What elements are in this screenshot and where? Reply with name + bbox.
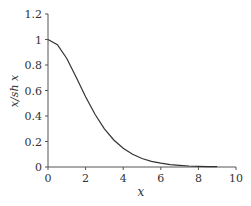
- y-axis-label: x/sh x: [8, 74, 21, 107]
- y-tick-label: 1: [35, 34, 42, 47]
- x-tick-label: 8: [195, 172, 202, 185]
- x-tick-label: 0: [45, 172, 52, 185]
- x-tick-label: 2: [82, 172, 89, 185]
- tick-labels: 024681000.20.40.60.811.2: [25, 8, 244, 185]
- y-tick-label: 0.6: [25, 85, 43, 98]
- axes: [48, 14, 236, 167]
- x-tick-label: 6: [157, 172, 164, 185]
- x-tick-label: 4: [120, 172, 127, 185]
- y-tick-label: 0.8: [25, 59, 43, 72]
- y-tick-label: 0: [35, 161, 42, 174]
- x-axis-label: x: [138, 185, 145, 199]
- x-tick-label: 10: [229, 172, 243, 185]
- chart: 024681000.20.40.60.811.2 x x/sh x: [0, 0, 251, 206]
- data-line: [48, 40, 217, 167]
- ticks: [45, 14, 236, 170]
- y-tick-label: 1.2: [25, 8, 43, 21]
- y-tick-label: 0.2: [25, 136, 43, 149]
- y-tick-label: 0.4: [25, 110, 43, 123]
